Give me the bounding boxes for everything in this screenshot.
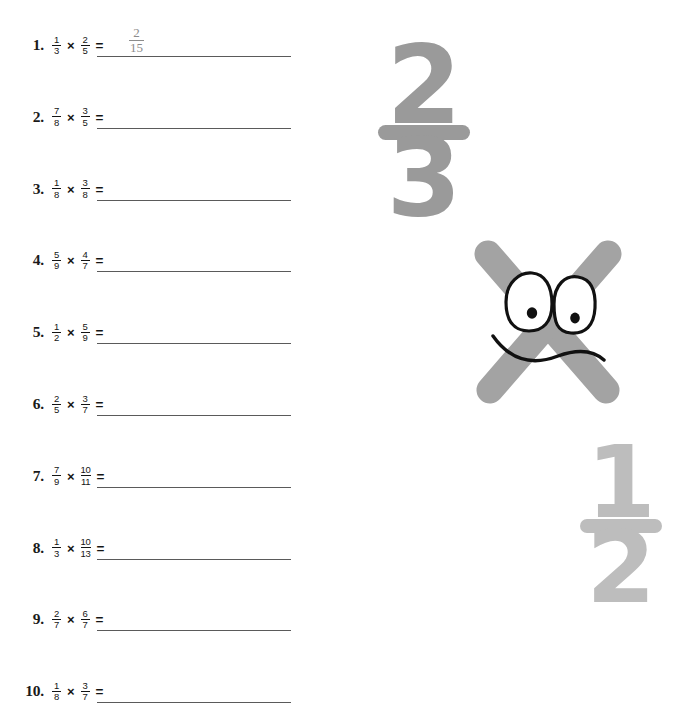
equals-sign: = xyxy=(96,325,104,340)
second-fraction: 1013 xyxy=(81,537,91,558)
first-fraction: 13 xyxy=(52,35,61,56)
fraction-numerator: 5 xyxy=(54,250,59,260)
problem-expression: 78×35= xyxy=(51,100,103,134)
fraction-denominator: 9 xyxy=(54,261,59,271)
problem-expression: 25×37= xyxy=(51,387,103,421)
fraction-denominator: 5 xyxy=(83,46,88,56)
answer-line[interactable] xyxy=(97,128,291,129)
problem-expression: 18×37= xyxy=(51,674,103,708)
worksheet-page: 1.13×25=2152.78×35=3.18×38=4.59×47=5.12×… xyxy=(0,0,682,708)
multiplication-operator: × xyxy=(67,253,75,268)
equals-sign: = xyxy=(96,38,104,53)
answer-line[interactable] xyxy=(97,559,291,560)
fraction-denominator: 5 xyxy=(54,405,59,415)
fraction-numerator: 6 xyxy=(83,609,88,619)
fraction-denominator: 13 xyxy=(81,548,91,558)
first-fraction: 12 xyxy=(52,322,61,343)
problem-number: 9. xyxy=(0,610,51,628)
fraction-denominator: 7 xyxy=(83,405,88,415)
problem-number: 1. xyxy=(0,36,51,54)
problem-row: 4.59×47= xyxy=(0,243,330,277)
fraction-numerator: 2 xyxy=(54,609,59,619)
answer-line[interactable] xyxy=(97,56,291,57)
second-fraction: 47 xyxy=(81,250,90,271)
fraction-numerator: 1 xyxy=(54,178,59,188)
multiplication-operator: × xyxy=(67,469,75,484)
fraction-denominator: 7 xyxy=(83,261,88,271)
second-fraction: 35 xyxy=(81,106,90,127)
problem-number: 6. xyxy=(0,395,51,413)
first-fraction: 25 xyxy=(52,394,61,415)
equals-sign: = xyxy=(96,612,104,627)
second-fraction: 37 xyxy=(81,681,90,702)
equals-sign: = xyxy=(97,541,105,556)
multiplication-operator: × xyxy=(67,38,75,53)
problem-row: 3.18×38= xyxy=(0,172,330,206)
fraction-numerator: 3 xyxy=(83,681,88,691)
fraction-denominator: 5 xyxy=(83,117,88,127)
answer-value[interactable]: 215 xyxy=(129,26,144,55)
first-fraction: 13 xyxy=(52,537,61,558)
multiplication-operator: × xyxy=(67,182,75,197)
fraction-numerator: 3 xyxy=(83,106,88,116)
answer-line[interactable] xyxy=(97,271,291,272)
problem-expression: 12×59= xyxy=(51,315,103,349)
problem-row: 2.78×35= xyxy=(0,100,330,134)
first-fraction: 18 xyxy=(52,681,61,702)
fraction-numerator: 3 xyxy=(83,394,88,404)
equals-sign: = xyxy=(96,253,104,268)
fraction-numerator: 7 xyxy=(54,106,59,116)
equals-sign: = xyxy=(96,397,104,412)
second-fraction: 59 xyxy=(81,322,90,343)
second-fraction: 38 xyxy=(81,178,90,199)
problem-row: 6.25×37= xyxy=(0,387,330,421)
second-fraction: 67 xyxy=(81,609,90,630)
problem-number: 10. xyxy=(0,682,51,700)
fraction-numerator: 1 xyxy=(54,35,59,45)
fraction-denominator: 8 xyxy=(54,692,59,702)
decorative-denominator: 3 xyxy=(386,128,461,227)
decorative-fraction-one-half: 1 2 xyxy=(580,437,662,614)
first-fraction: 78 xyxy=(52,106,61,127)
equals-sign: = xyxy=(97,469,105,484)
problem-number: 4. xyxy=(0,251,51,269)
fraction-numerator: 10 xyxy=(81,537,91,547)
first-fraction: 79 xyxy=(52,465,61,486)
fraction-numerator: 10 xyxy=(81,465,91,475)
answer-line[interactable] xyxy=(97,630,291,631)
problem-row: 10.18×37= xyxy=(0,674,330,708)
answer-line[interactable] xyxy=(97,487,291,488)
fraction-denominator: 7 xyxy=(54,620,59,630)
multiplication-operator: × xyxy=(67,541,75,556)
first-fraction: 27 xyxy=(52,609,61,630)
decorative-denominator: 2 xyxy=(586,522,656,614)
problem-row: 1.13×25=215 xyxy=(0,28,330,62)
answer-denominator: 15 xyxy=(130,41,143,55)
problem-expression: 13×25= xyxy=(51,28,103,62)
answer-numerator: 2 xyxy=(133,26,140,40)
fraction-numerator: 7 xyxy=(54,465,59,475)
problem-row: 5.12×59= xyxy=(0,315,330,349)
problem-number: 5. xyxy=(0,323,51,341)
answer-line[interactable] xyxy=(97,702,291,703)
problem-row: 7.79×1011= xyxy=(0,459,330,493)
fraction-numerator: 3 xyxy=(83,178,88,188)
fraction-numerator: 5 xyxy=(83,322,88,332)
fraction-denominator: 3 xyxy=(54,46,59,56)
answer-line[interactable] xyxy=(97,343,291,344)
equals-sign: = xyxy=(96,110,104,125)
fraction-denominator: 11 xyxy=(81,476,90,486)
problem-row: 8.13×1013= xyxy=(0,531,330,565)
answer-line[interactable] xyxy=(97,415,291,416)
problem-number: 3. xyxy=(0,180,51,198)
answer-line[interactable] xyxy=(97,200,291,201)
fraction-denominator: 2 xyxy=(54,333,59,343)
fraction-numerator: 1 xyxy=(54,537,59,547)
problem-number: 7. xyxy=(0,467,51,485)
problem-expression: 59×47= xyxy=(51,243,103,277)
fraction-denominator: 8 xyxy=(54,189,59,199)
multiplication-operator: × xyxy=(67,110,75,125)
multiplication-operator: × xyxy=(67,684,75,699)
problem-expression: 18×38= xyxy=(51,172,103,206)
second-fraction: 1011 xyxy=(81,465,91,486)
